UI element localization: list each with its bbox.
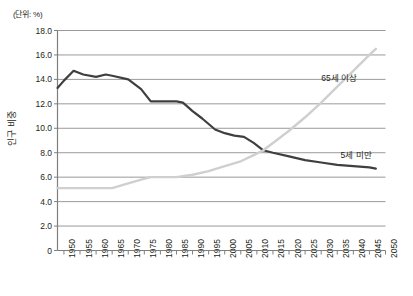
series-line	[58, 49, 376, 188]
x-axis-tick-marks	[64, 251, 386, 255]
series-label: 65세 이상	[321, 71, 357, 83]
population-share-line-chart: (단위: %) 인구 비중 18.016.014.012.010.08.06.0…	[0, 0, 413, 296]
data-series	[58, 49, 376, 188]
series-label: 5세 미만	[340, 148, 371, 160]
gridlines	[58, 31, 386, 227]
series-line	[58, 71, 376, 169]
axis-lines	[58, 31, 386, 251]
